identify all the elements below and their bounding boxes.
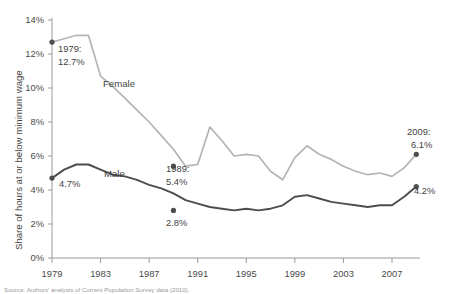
y-tick-label: 4% xyxy=(30,184,44,195)
series-line-female xyxy=(52,35,416,180)
y-tick-label: 2% xyxy=(30,218,44,229)
line-chart: Share of hours at or below minimum wage … xyxy=(0,0,449,294)
annotation-female-2009-year: 2009: xyxy=(407,126,430,137)
annotation-male-2009-value: 4.2% xyxy=(414,185,435,196)
y-tick-label: 10% xyxy=(25,82,44,93)
annotation-female-1979-year: 1979: xyxy=(58,43,81,54)
x-tick-label: 1999 xyxy=(284,268,305,279)
data-point-markers xyxy=(49,40,418,213)
data-point-marker xyxy=(171,208,176,213)
y-tick-label: 0% xyxy=(30,252,44,263)
source-caption: Source: Authors' analysis of Current Pop… xyxy=(4,286,444,294)
x-tick-label: 1979 xyxy=(42,268,63,279)
x-tick-label: 2007 xyxy=(382,268,403,279)
annotation-female-1989-year: 1989: xyxy=(166,163,189,174)
series-label-male: Male xyxy=(104,168,125,179)
y-tick-label: 6% xyxy=(30,150,44,161)
x-tick-label: 1991 xyxy=(187,268,208,279)
y-axis-ticks: 0%2%4%6%8%10%12%14% xyxy=(25,14,52,263)
data-point-marker xyxy=(49,176,54,181)
y-tick-label: 14% xyxy=(25,14,44,25)
x-tick-label: 2003 xyxy=(333,268,354,279)
annotation-female-2009-value: 6.1% xyxy=(411,139,432,150)
annotation-male-1979-value: 4.7% xyxy=(59,178,80,189)
data-point-marker xyxy=(414,152,419,157)
y-tick-label: 8% xyxy=(30,116,44,127)
x-axis-ticks: 19791983198719911995199920032007 xyxy=(42,258,403,279)
x-tick-label: 1987 xyxy=(139,268,160,279)
annotation-female-1979-value: 12.7% xyxy=(58,56,85,67)
series-label-female: Female xyxy=(103,78,135,89)
y-tick-label: 12% xyxy=(25,48,44,59)
chart-container: Share of hours at or below minimum wage … xyxy=(0,0,449,294)
data-point-marker xyxy=(49,40,54,45)
annotation-male-1989-value: 2.8% xyxy=(166,217,187,228)
x-tick-label: 1983 xyxy=(90,268,111,279)
x-tick-label: 1995 xyxy=(236,268,257,279)
y-axis-title: Share of hours at or below minimum wage xyxy=(13,70,24,250)
annotation-female-1989-value: 5.4% xyxy=(166,176,187,187)
